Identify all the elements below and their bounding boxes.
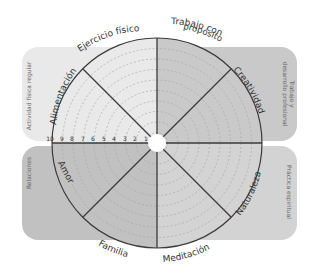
svg-text:3: 3 (123, 135, 127, 142)
svg-text:6: 6 (91, 135, 95, 142)
category-label-relaciones: Relaciones (25, 157, 32, 189)
category-label-trabajo-2: desarrollo profesional (281, 62, 289, 127)
svg-text:10: 10 (46, 135, 54, 142)
svg-text:4: 4 (112, 135, 116, 142)
wheel-of-life-diagram: 10 9 8 7 6 5 4 3 2 1 Ejercicio físico Tr… (0, 0, 314, 274)
svg-text:1: 1 (144, 135, 148, 142)
svg-text:8: 8 (70, 135, 74, 142)
svg-text:5: 5 (102, 135, 106, 142)
category-label-practica-espiritual: Práctica espiritual (285, 165, 293, 219)
category-label-actividad-fisica: Actividad física regular (25, 61, 33, 130)
svg-text:7: 7 (81, 135, 85, 142)
svg-text:9: 9 (60, 135, 64, 142)
svg-text:2: 2 (133, 135, 137, 142)
wheel-hub (148, 134, 166, 152)
